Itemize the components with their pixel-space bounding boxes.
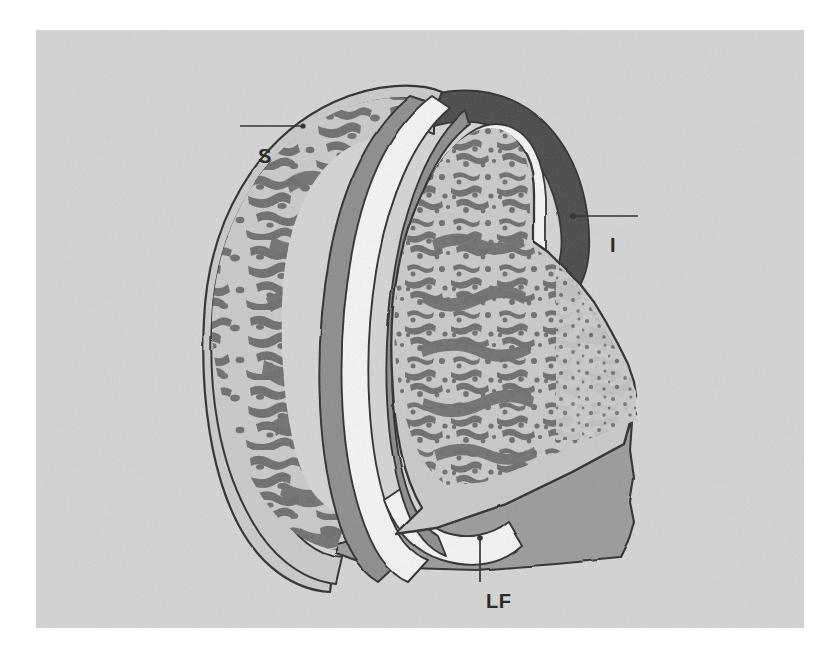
figure-root: S I LF	[0, 0, 828, 661]
anatomical-illustration	[36, 30, 804, 628]
label-inferior-articular-process: I	[610, 235, 616, 255]
paper-grain-overlay	[36, 30, 804, 628]
label-superior-articular-process: S	[258, 146, 272, 166]
figure-panel: S I LF	[36, 30, 804, 628]
label-ligamentum-flavum: LF	[486, 591, 511, 611]
